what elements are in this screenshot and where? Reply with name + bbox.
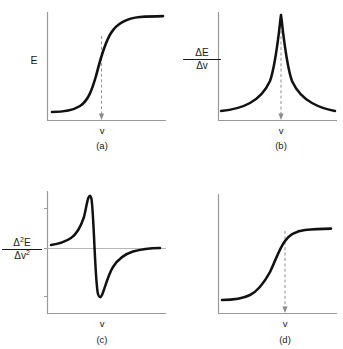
curve-second-derivative	[51, 196, 160, 297]
panel-d-caption: (d)	[269, 335, 301, 345]
curve-peak	[221, 15, 335, 111]
panel-c-y-label-numerator: Δ2E	[2, 237, 42, 250]
panel-c: Δ2E Δv2 + 0 − v (c)	[0, 175, 172, 349]
panel-b-caption: (b)	[265, 141, 297, 151]
panel-c-plot	[0, 175, 172, 349]
panel-a-caption: (a)	[86, 141, 118, 151]
panel-d: E v (d)	[171, 175, 343, 349]
panel-b-y-label-denominator: Δv	[183, 60, 221, 72]
figure-root: E v (a) ΔE Δv v (b)	[0, 0, 343, 349]
panel-c-caption: (c)	[86, 335, 118, 345]
marker-arrowhead	[282, 307, 287, 314]
marker-arrowhead	[99, 114, 104, 121]
curve-sigmoid-shifted	[222, 229, 331, 300]
panel-b-y-axis-label: ΔE Δv	[183, 47, 221, 71]
panel-b-plot	[171, 0, 343, 160]
panel-d-x-axis-label: v	[275, 319, 295, 329]
panel-a-y-axis-label: E	[26, 55, 42, 66]
curve-sigmoid	[52, 16, 163, 112]
panel-c-y-den-base: Δv	[14, 250, 26, 261]
panel-b-x-axis-label: v	[271, 126, 291, 136]
panel-a-x-axis-label: v	[92, 126, 112, 136]
panel-b: ΔE Δv v (b)	[171, 0, 343, 160]
panel-c-y-axis-label: Δ2E Δv2	[2, 237, 42, 261]
panel-a-plot	[0, 0, 172, 160]
marker-arrowhead	[278, 114, 283, 121]
panel-c-y-num-tail: E	[24, 237, 31, 248]
panel-c-y-label-denominator: Δv2	[2, 250, 42, 262]
panel-d-plot	[171, 175, 343, 349]
panel-b-y-label-numerator: ΔE	[183, 47, 221, 60]
panel-c-y-den-sup: 2	[26, 248, 30, 255]
panel-c-x-axis-label: v	[92, 319, 112, 329]
panel-a: E v (a)	[0, 0, 172, 160]
